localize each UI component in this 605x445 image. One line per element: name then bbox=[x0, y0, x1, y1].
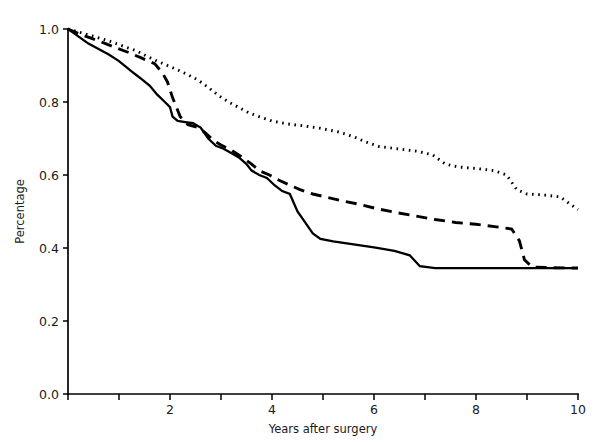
y-tick-label: 0.2 bbox=[39, 314, 59, 329]
x-tick-label: 8 bbox=[472, 402, 480, 417]
x-tick-label: 6 bbox=[370, 402, 378, 417]
y-tick-label: 1.0 bbox=[39, 22, 59, 37]
y-tick-label: 0.6 bbox=[39, 168, 59, 183]
x-tick-label: 2 bbox=[166, 402, 174, 417]
x-axis-title: Years after surgery bbox=[268, 422, 378, 436]
y-tick-label: 0.0 bbox=[39, 387, 59, 402]
x-tick-label: 4 bbox=[268, 402, 276, 417]
survival-curve-figure: 0.00.20.40.60.81.0 246810 Years after su… bbox=[0, 0, 605, 445]
y-tick-label: 0.8 bbox=[39, 95, 59, 110]
plot-background bbox=[0, 0, 605, 445]
y-tick-label: 0.4 bbox=[39, 241, 59, 256]
y-axis-title: Percentage bbox=[13, 179, 27, 244]
chart-canvas: 0.00.20.40.60.81.0 246810 Years after su… bbox=[0, 0, 605, 445]
x-tick-label: 10 bbox=[570, 402, 586, 417]
